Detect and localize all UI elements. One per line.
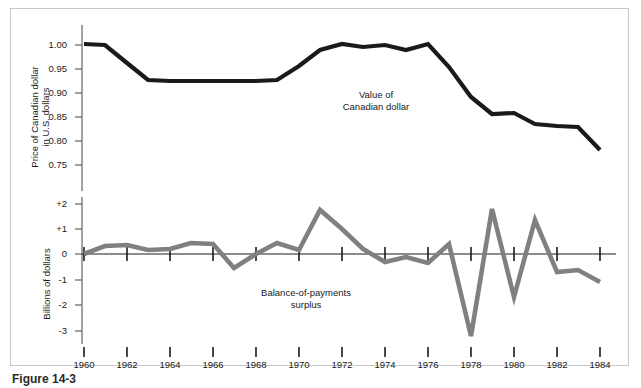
xtick-label-1964: 1964 (150, 359, 190, 370)
lower-panel (75, 197, 616, 344)
figure-caption: Figure 14-3 (12, 372, 76, 388)
upper-series-annotation: Value of Canadian dollar (321, 89, 431, 112)
upper-series-annotation-line2: Canadian dollar (343, 101, 410, 112)
x-axis-ticks (84, 347, 600, 357)
x-axis (84, 347, 600, 357)
xtick-label-1972: 1972 (322, 359, 362, 370)
lower-series-annotation: Balance-of-payments surplus (241, 287, 371, 310)
xtick-label-1962: 1962 (107, 359, 147, 370)
lower-y-axis-title: Billions of dollars (41, 224, 52, 344)
lower-series-line (84, 209, 600, 336)
upper-y-axis-title: Price of Canadian dollar in U.S. dollars (29, 37, 51, 197)
xtick-label-1960: 1960 (64, 359, 104, 370)
xtick-label-1970: 1970 (279, 359, 319, 370)
lower-y-axis-title-line1: Billions of dollars (41, 248, 52, 319)
upper-y-ticks (75, 45, 82, 165)
lower-y-ticks (75, 204, 82, 331)
chart-canvas (11, 9, 628, 365)
xtick-label-1974: 1974 (365, 359, 405, 370)
figure-root: 1.00 0.95 0.90 0.85 0.80 0.75 +2 +1 0 -1… (0, 0, 641, 388)
upper-y-axis-title-line1: Price of Canadian dollar (29, 66, 40, 167)
upper-series-annotation-line1: Value of (359, 89, 393, 100)
upper-y-axis-title-line2: in U.S. dollars (40, 87, 51, 146)
figure-frame: 1.00 0.95 0.90 0.85 0.80 0.75 +2 +1 0 -1… (10, 8, 629, 366)
lower-ytick-label-0: +2 (29, 198, 67, 209)
xtick-label-1978: 1978 (451, 359, 491, 370)
xtick-label-1976: 1976 (408, 359, 448, 370)
lower-series-annotation-line1: Balance-of-payments (261, 287, 351, 298)
xtick-label-1982: 1982 (537, 359, 577, 370)
lower-series-annotation-line2: surplus (291, 299, 322, 310)
xtick-label-1966: 1966 (193, 359, 233, 370)
xtick-label-1968: 1968 (236, 359, 276, 370)
xtick-label-1980: 1980 (494, 359, 534, 370)
xtick-label-1984: 1984 (580, 359, 620, 370)
